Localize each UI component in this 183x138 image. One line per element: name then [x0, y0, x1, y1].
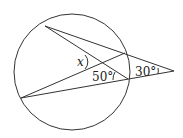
label-50: 50° [92, 70, 113, 84]
label-x: x [77, 55, 84, 69]
geometry-diagram: x 50° 30° [0, 0, 183, 138]
label-30: 30° [135, 65, 156, 79]
angle-arc-x [85, 55, 88, 69]
angle-arc-50 [113, 72, 115, 80]
